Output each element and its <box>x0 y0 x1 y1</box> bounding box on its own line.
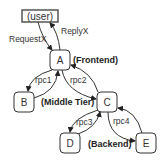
node-e: E <box>136 133 156 153</box>
node-a: A <box>50 50 70 70</box>
node-c-label: C <box>103 97 110 108</box>
backend-label: (Backend) <box>88 139 132 149</box>
node-d-label: D <box>66 138 73 149</box>
node-b: B <box>14 92 34 112</box>
node-c: C <box>97 92 117 112</box>
user-node-label: (user) <box>27 11 53 22</box>
reply-label: ReplyX <box>61 26 89 36</box>
rpc1-label: rpc1 <box>35 75 52 85</box>
node-b-label: B <box>21 97 28 108</box>
call-tree-diagram: (user) RequestX ReplyX A (Frontend) rpc1… <box>0 0 168 165</box>
node-d: D <box>60 133 80 153</box>
reply-edge <box>50 23 60 50</box>
rpc3-label: rpc3 <box>76 117 93 127</box>
node-e-label: E <box>143 138 150 149</box>
request-label: RequestX <box>9 34 47 44</box>
rpc2-label: rpc2 <box>70 75 87 85</box>
frontend-label: (Frontend) <box>73 55 118 65</box>
node-a-label: A <box>57 55 64 66</box>
user-node: (user) <box>22 10 58 22</box>
rpc4-label: rpc4 <box>113 116 130 126</box>
middle-tier-label: (Middle Tier) <box>41 97 94 107</box>
